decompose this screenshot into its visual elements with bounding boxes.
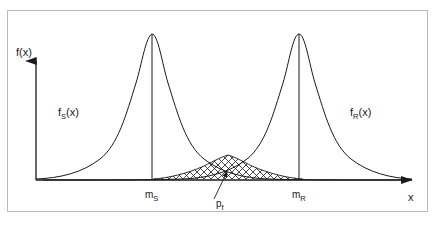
tick-label-mr: mR xyxy=(292,189,306,203)
plot-frame: f(x) x fS(x) fR(x) mS mR xyxy=(7,10,428,212)
distribution-chart: f(x) x fS(x) fR(x) mS mR xyxy=(8,11,427,211)
figure-root: f(x) x fS(x) fR(x) mS mR xyxy=(0,0,438,226)
annotation-label-pf: pf xyxy=(216,198,225,211)
tick-label-ms: mS xyxy=(145,189,158,203)
x-axis-label: x xyxy=(408,191,414,203)
y-axis-label: f(x) xyxy=(16,46,32,58)
curve-label-fs: fS(x) xyxy=(58,106,79,121)
curve-label-fr: fR(x) xyxy=(350,106,371,121)
caption-strip xyxy=(8,217,428,226)
overlap-area-group xyxy=(153,155,303,179)
